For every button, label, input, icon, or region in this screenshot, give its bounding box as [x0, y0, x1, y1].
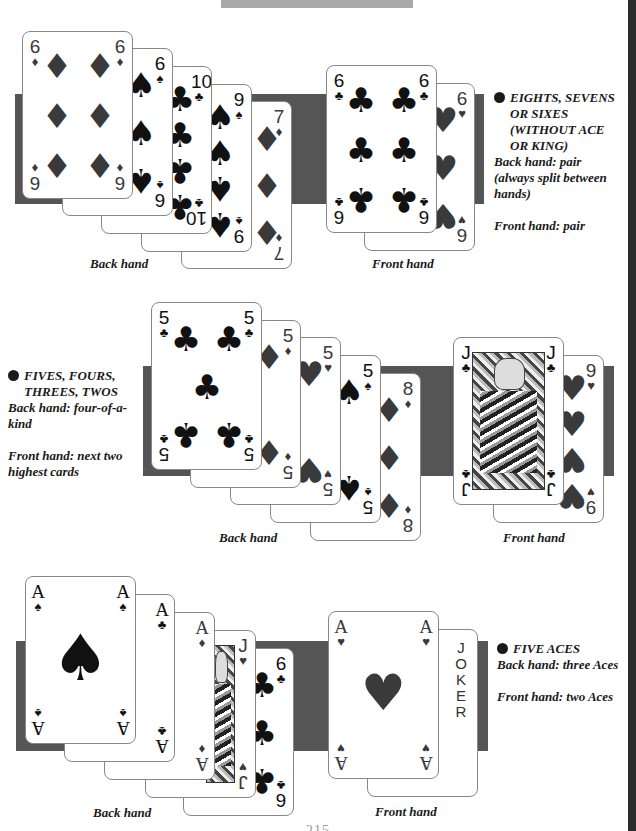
club-icon: ♣ — [169, 418, 203, 452]
club-icon: ♣ — [387, 133, 421, 167]
club-icon: ♣ — [387, 183, 421, 217]
card-index: A♦ — [194, 742, 210, 773]
rule-heading: FIVES, FOURS, THREES, TWOS — [8, 368, 148, 400]
front-hand-caption: Front hand — [375, 804, 437, 820]
club-icon: ♣ — [344, 183, 378, 217]
card-index: A♥ — [333, 618, 349, 649]
rule-heading: FIVE ACES — [497, 641, 627, 657]
card-index: J♥ — [235, 637, 251, 668]
card-jack-clubs: J♣ J♣ J♣ J♣ — [453, 337, 564, 505]
diamond-icon: ♦ — [250, 122, 284, 156]
back-hand-rule: Back hand: pair — [494, 154, 624, 170]
card-index: A♠ — [30, 706, 46, 737]
club-icon: ♣ — [169, 322, 203, 356]
card-index: A♣ — [154, 724, 170, 755]
back-hand-rule: Back hand: four-of-a-kind — [8, 400, 148, 432]
card-ace-hearts: A♥ A♥ A♥ A♥ ♥ — [328, 611, 439, 779]
bullet-icon — [8, 370, 19, 381]
back-hand-caption: Back hand — [93, 805, 151, 821]
club-icon: ♣ — [344, 133, 378, 167]
diamond-icon: ♦ — [83, 149, 117, 183]
back-hand-rule: Back hand: three Aces — [497, 657, 627, 673]
club-icon: ♣ — [387, 83, 421, 117]
card-index: A♥ — [418, 618, 434, 649]
rule-heading: EIGHTS, SEVENS OR SIXES (WITHOUT ACE OR … — [494, 90, 624, 154]
diamond-icon: ♦ — [40, 149, 74, 183]
bullet-icon — [494, 92, 505, 103]
card-index: A♠ — [115, 583, 131, 614]
card-5-clubs: 5♣ 5♣ 5♣ 5♣ ♣ ♣ ♣ ♣ ♣ — [151, 302, 262, 470]
front-hand-rule: Front hand: pair — [494, 218, 624, 234]
card-index: A♠ — [115, 706, 131, 737]
card-index: A♠ — [30, 583, 46, 614]
club-icon: ♣ — [212, 418, 246, 452]
front-hand-rule: Front hand: two Aces — [497, 689, 627, 705]
right-edge-bar — [628, 0, 636, 831]
front-hand-caption: Front hand — [372, 256, 434, 272]
card-index: J♣ — [458, 467, 474, 498]
front-hand-caption: Front hand — [503, 530, 565, 546]
club-icon: ♣ — [190, 370, 224, 404]
heart-icon: ♥ — [352, 661, 416, 725]
card-6-diamonds: 6♦ 6♦ 6♦ 6♦ ♦ ♦ ♦ ♦ ♦ ♦ — [22, 31, 133, 199]
rule-note: FIVES, FOURS, THREES, TWOS Back hand: fo… — [8, 368, 148, 480]
card-index: J♥ — [235, 760, 251, 791]
top-gray-bar — [221, 0, 413, 8]
joker-label: J O K E R — [455, 640, 467, 720]
diamond-icon: ♦ — [83, 49, 117, 83]
spade-icon: ♠ — [49, 626, 113, 690]
diamond-icon: ♦ — [40, 49, 74, 83]
page-number: 215 — [306, 823, 330, 831]
back-hand-caption: Back hand — [219, 530, 277, 546]
back-hand-caption: Back hand — [90, 256, 148, 272]
card-index: J♣ — [458, 344, 474, 375]
rule-note: FIVE ACES Back hand: three Aces Front ha… — [497, 641, 627, 705]
card-index: J♣ — [543, 344, 559, 375]
diamond-icon: ♦ — [250, 216, 284, 250]
card-index: J♣ — [543, 467, 559, 498]
club-icon: ♣ — [344, 83, 378, 117]
rule-note: EIGHTS, SEVENS OR SIXES (WITHOUT ACE OR … — [494, 90, 624, 234]
front-hand-rule: Front hand: next two — [8, 448, 148, 464]
jack-portrait — [472, 352, 545, 490]
diamond-icon: ♦ — [250, 169, 284, 203]
card-index: A♣ — [154, 601, 170, 632]
diamond-icon: ♦ — [83, 99, 117, 133]
card-index: A♥ — [418, 741, 434, 772]
card-6-clubs: 6♣ 6♣ 6♣ 6♣ ♣ ♣ ♣ ♣ ♣ ♣ — [326, 65, 437, 233]
club-icon: ♣ — [212, 322, 246, 356]
card-index: A♦ — [194, 619, 210, 650]
card-index: A♥ — [333, 741, 349, 772]
card-ace-spades: A♠ A♠ A♠ A♠ ♠ — [25, 576, 136, 744]
bullet-icon — [497, 643, 508, 654]
diamond-icon: ♦ — [40, 99, 74, 133]
